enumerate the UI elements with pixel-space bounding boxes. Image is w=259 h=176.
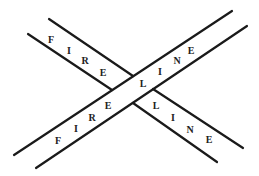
fire-line-diagram: FIRELINEFIRELINE: [0, 0, 259, 176]
band-edges: [0, 0, 259, 176]
top-right-line-letter: I: [158, 67, 162, 77]
descending-band-edge: [153, 89, 243, 148]
bottom-left-fire-letter: I: [74, 124, 78, 134]
top-left-fire-letter: E: [100, 68, 107, 78]
top-left-fire-letter: I: [67, 46, 71, 56]
top-left-fire-letter: R: [81, 56, 88, 66]
bottom-left-fire-letter: F: [55, 136, 61, 146]
bottom-right-line-letter: N: [186, 125, 193, 135]
top-right-line-letter: N: [173, 56, 180, 66]
bottom-right-line-letter: L: [153, 101, 160, 111]
descending-band-edge: [49, 19, 133, 76]
bottom-left-fire-letter: R: [88, 113, 95, 123]
top-right-line-letter: E: [188, 46, 195, 56]
ascending-band-edge: [14, 11, 232, 155]
bottom-left-fire-letter: E: [105, 101, 112, 111]
top-right-line-letter: L: [140, 79, 147, 89]
bottom-right-line-letter: E: [206, 135, 213, 145]
top-left-fire-letter: F: [48, 35, 54, 45]
descending-band-edge: [28, 34, 112, 90]
bottom-right-line-letter: I: [171, 113, 175, 123]
